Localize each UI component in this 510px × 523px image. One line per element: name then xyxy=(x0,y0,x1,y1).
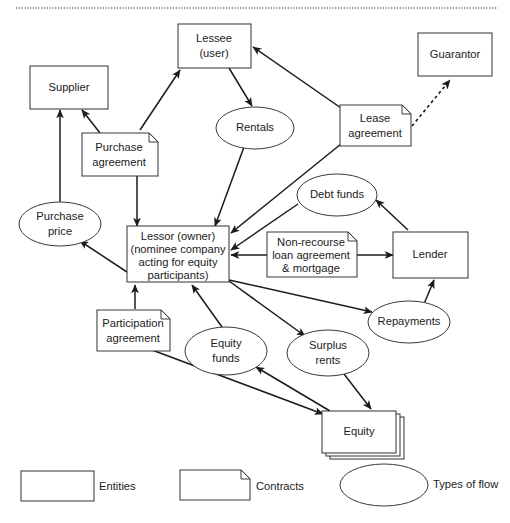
nonrecourse-loan-label-line1: Non-recourse xyxy=(277,236,345,248)
node-lessee[interactable]: Lessee (user) xyxy=(178,24,251,68)
legend-item-entities: Entities xyxy=(21,471,136,501)
edge-lender-to-debt-funds xyxy=(376,200,408,230)
legend-contracts-label: Contracts xyxy=(256,480,304,492)
node-lender[interactable]: Lender xyxy=(393,232,468,278)
guarantor-label: Guarantor xyxy=(430,48,481,60)
lessor-label-line4: participants) xyxy=(148,269,209,281)
nonrecourse-loan-label-line2: loan agreement xyxy=(272,249,351,261)
legend-flows-label: Types of flow xyxy=(433,478,499,490)
node-lessor[interactable]: Lessor (owner) (nominee company acting f… xyxy=(127,226,229,282)
purchase-agreement-label-line1: Purchase xyxy=(95,141,142,153)
purchase-price-label-line2: price xyxy=(48,225,72,237)
participation-agreement-label-line2: agreement xyxy=(106,332,160,344)
lessor-label-line3: acting for equity xyxy=(139,256,218,268)
edge-purchase-agreement-to-lessee xyxy=(140,70,180,130)
node-repayments[interactable]: Repayments xyxy=(368,301,450,343)
lessor-label-line1: Lessor (owner) xyxy=(141,230,216,242)
nonrecourse-loan-label-line3: & mortgage xyxy=(282,262,340,274)
lender-label: Lender xyxy=(413,248,448,260)
lease-agreement-fold-icon xyxy=(402,105,411,114)
node-guarantor[interactable]: Guarantor xyxy=(418,33,492,76)
legend-contract-fold-icon xyxy=(241,470,250,479)
lease-structure-diagram: Supplier Lessee (user) Guarantor Purchas… xyxy=(0,0,510,523)
lease-agreement-label-line2: agreement xyxy=(348,127,402,139)
lessor-label-line2: (nominee company xyxy=(130,243,226,255)
node-nonrecourse-loan[interactable]: Non-recourse loan agreement & mortgage xyxy=(267,232,357,277)
lessee-label-line1: Lessee xyxy=(196,32,232,44)
edge-surplus-rents-to-equity xyxy=(344,374,371,409)
node-purchase-agreement[interactable]: Purchase agreement xyxy=(82,133,158,176)
purchase-agreement-label-line2: agreement xyxy=(92,156,146,168)
lessee-label-line2: (user) xyxy=(199,47,228,59)
debt-funds-label: Debt funds xyxy=(310,188,365,200)
purchase-agreement-fold-icon xyxy=(149,133,158,142)
node-lease-agreement[interactable]: Lease agreement xyxy=(340,105,411,146)
edge-lessor-to-purchase-price xyxy=(80,241,127,272)
surplus-rents-label-line1: Surplus xyxy=(309,339,347,351)
legend-entity-swatch xyxy=(21,471,94,501)
edge-lessee-to-rentals xyxy=(229,68,252,106)
participation-agreement-label-line1: Participation xyxy=(102,317,164,329)
node-equity[interactable]: Equity xyxy=(322,411,404,459)
supplier-label: Supplier xyxy=(48,81,89,93)
purchase-price-label-line1: Purchase xyxy=(36,210,83,222)
legend-contract-swatch xyxy=(180,470,250,500)
lease-agreement-label-line1: Lease xyxy=(360,112,390,124)
node-equity-funds[interactable]: Equity funds xyxy=(185,327,267,375)
legend-item-flows: Types of flow xyxy=(340,464,499,506)
node-debt-funds[interactable]: Debt funds xyxy=(297,174,377,216)
edge-lease-agreement-to-lessee xyxy=(253,47,341,108)
surplus-rents-label-line2: rents xyxy=(316,354,341,366)
equity-funds-label-line1: Equity xyxy=(210,337,241,349)
node-rentals[interactable]: Rentals xyxy=(216,107,294,149)
edge-equity-funds-to-lessor xyxy=(192,285,222,327)
diagram-canvas: Supplier Lessee (user) Guarantor Purchas… xyxy=(0,0,510,523)
rentals-label: Rentals xyxy=(236,121,274,133)
legend: Entities Contracts Types of flow xyxy=(21,464,499,506)
node-supplier[interactable]: Supplier xyxy=(30,66,108,109)
legend-item-contracts: Contracts xyxy=(180,470,304,500)
purchase-agreement-box[interactable] xyxy=(82,133,158,176)
node-participation-agreement[interactable]: Participation agreement xyxy=(97,310,170,351)
repayments-label: Repayments xyxy=(378,315,441,327)
equity-funds-label-line2: funds xyxy=(212,352,240,364)
nonrecourse-loan-fold-icon xyxy=(348,232,357,241)
edge-purchase-agreement-to-supplier xyxy=(82,110,100,133)
legend-flow-swatch xyxy=(340,464,428,506)
node-surplus-rents[interactable]: Surplus rents xyxy=(287,330,369,376)
node-purchase-price[interactable]: Purchase price xyxy=(19,202,101,246)
edge-rentals-to-lessor xyxy=(215,147,244,226)
equity-label: Equity xyxy=(343,425,374,437)
edge-lease-agreement-to-guarantor xyxy=(412,80,450,126)
edge-repayments-to-lender xyxy=(424,280,434,304)
legend-entities-label: Entities xyxy=(99,480,136,492)
